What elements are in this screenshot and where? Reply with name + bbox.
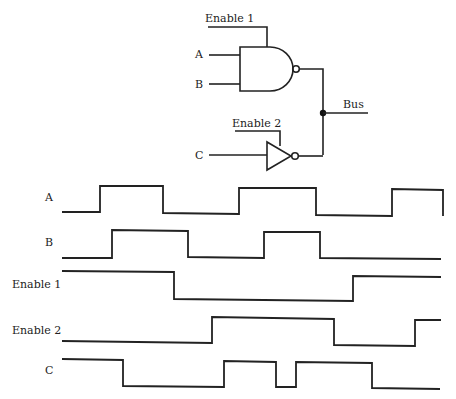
- circuit-schematic: Enable 1 A B Bus Enable 2 C: [194, 12, 368, 170]
- signal-enable1-waveform: [62, 271, 441, 301]
- signal-c-waveform: [62, 359, 440, 389]
- input-c-label: C: [195, 149, 203, 162]
- signal-enable2-waveform: [62, 317, 441, 346]
- signal-a-waveform: [62, 186, 443, 216]
- signal-b-label: B: [45, 236, 53, 249]
- enable2-wire: [235, 131, 280, 146]
- timing-diagram: A B Enable 1 Enable 2 C: [12, 186, 443, 389]
- input-a-label: A: [194, 48, 204, 61]
- input-b-label: B: [195, 78, 203, 91]
- signal-enable2-label: Enable 2: [12, 324, 61, 337]
- enable2-label: Enable 2: [232, 117, 281, 130]
- signal-b-waveform: [62, 230, 441, 259]
- logic-diagram: Enable 1 A B Bus Enable 2 C A B Enable 1…: [0, 0, 456, 399]
- nand-gate-icon: [240, 47, 293, 91]
- signal-c-label: C: [45, 364, 53, 377]
- inverter-gate-icon: [267, 142, 291, 170]
- signal-a-label: A: [44, 191, 54, 204]
- signal-enable1-label: Enable 1: [12, 278, 61, 291]
- enable1-wire: [208, 27, 267, 47]
- inverter-bubble-icon: [292, 153, 299, 160]
- enable1-label: Enable 1: [205, 12, 254, 25]
- nand-output-wire: [299, 69, 323, 155]
- bus-label: Bus: [343, 98, 364, 111]
